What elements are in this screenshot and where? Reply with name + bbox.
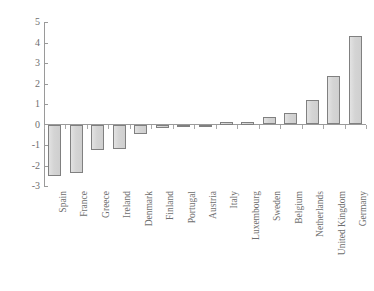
y-tick-mark-neg3 [44,186,48,187]
x-label-belgium: Belgium [295,191,305,224]
plot-area [44,22,366,186]
bar-finland [156,125,169,128]
x-tick-mark [173,125,174,129]
x-label-text: United Kingdom [338,191,348,255]
bar-chart: 5 4 3 2 1 0 -1 -2 -3 SpainFranceGreeceIr… [0,0,374,291]
x-label-text: Germany [359,191,369,226]
x-tick-mark [259,125,260,129]
y-tick-label-2: 2 [14,79,40,89]
x-tick-mark [151,125,152,129]
bar-sweden [263,117,276,124]
y-tick-label-0: 0 [14,120,40,130]
x-tick-mark [130,125,131,129]
x-label-text: Belgium [295,191,305,224]
y-tick-label-3: 3 [14,58,40,68]
y-axis-tick-labels: 5 4 3 2 1 0 -1 -2 -3 [10,22,40,186]
bar-united-kingdom [327,76,340,124]
x-label-text: Sweden [273,191,283,221]
y-tick-label-neg1: -1 [14,140,40,150]
x-label-text: Greece [102,191,112,218]
x-tick-mark [65,125,66,129]
x-label-text: Spain [59,191,69,213]
x-label-germany: Germany [359,191,369,226]
x-label-spain: Spain [59,191,69,213]
bar-italy [220,122,233,125]
x-label-denmark: Denmark [145,191,155,226]
x-label-text: Denmark [145,191,155,226]
bar-spain [48,125,61,176]
x-tick-mark [280,125,281,129]
y-tick-label-neg2: -2 [14,161,40,171]
x-label-text: France [80,191,90,217]
x-tick-mark [194,125,195,129]
bar-denmark [134,125,147,134]
x-tick-mark [237,125,238,129]
bar-germany [349,36,362,124]
bar-netherlands [306,100,319,125]
x-tick-mark [87,125,88,129]
x-label-finland: Finland [166,191,176,220]
x-label-text: Luxembourg [252,191,262,240]
x-label-united-kingdom: United Kingdom [338,191,348,255]
x-tick-mark [366,125,367,129]
x-label-netherlands: Netherlands [316,191,326,237]
x-label-austria: Austria [209,191,219,219]
x-label-ireland: Ireland [123,191,133,218]
bar-luxembourg [241,122,254,125]
bar-ireland [113,125,126,150]
x-label-text: Austria [209,191,219,219]
bar-austria [199,125,212,128]
x-label-italy: Italy [230,191,240,208]
bar-france [70,125,83,173]
x-tick-mark [302,125,303,129]
x-label-france: France [80,191,90,217]
x-tick-mark [216,125,217,129]
y-tick-label-neg3: -3 [14,181,40,191]
x-label-text: Portugal [188,191,198,223]
x-label-luxembourg: Luxembourg [252,191,262,240]
x-tick-mark [345,125,346,129]
x-label-portugal: Portugal [188,191,198,223]
bar-portugal [177,125,190,128]
bar-greece [91,125,104,151]
x-tick-mark [108,125,109,129]
y-tick-label-1: 1 [14,99,40,109]
x-tick-mark [44,125,45,129]
x-label-sweden: Sweden [273,191,283,221]
x-label-text: Finland [166,191,176,220]
x-label-text: Italy [230,191,240,208]
x-tick-mark [323,125,324,129]
y-tick-label-4: 4 [14,38,40,48]
x-label-greece: Greece [102,191,112,218]
x-label-text: Netherlands [316,191,326,237]
x-label-text: Ireland [123,191,133,218]
y-tick-label-5: 5 [14,17,40,27]
bar-belgium [284,113,297,124]
